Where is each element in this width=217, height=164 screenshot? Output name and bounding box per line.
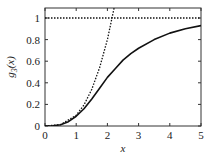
x-tick-label: 5 [198,129,204,141]
x-tick-label: 3 [136,129,142,141]
plot-border [45,8,201,126]
x-tick-label: 4 [167,129,173,141]
y-axis-label: g3(x) [4,56,19,78]
y-tick-label: 0.2 [26,98,40,110]
x-tick-label: 1 [73,129,79,141]
x-axis: 012345 [42,8,204,141]
y-tick-label: 0.4 [26,77,40,89]
plot-frame [45,8,201,126]
y-axis: 00.20.40.60.81 [26,12,201,132]
x-tick-label: 2 [105,129,111,141]
y-tick-label: 0 [35,120,41,132]
y-tick-label: 0.8 [26,34,40,46]
curve-g3 [45,26,201,126]
asymptote-line [45,3,115,126]
series-group [45,3,201,126]
chart: 00.20.40.60.81 012345 x g3(x) [0,0,217,164]
x-tick-label: 0 [42,129,48,141]
x-axis-label: x [120,142,126,154]
y-tick-label: 1 [35,12,41,24]
y-tick-label: 0.6 [26,55,40,67]
